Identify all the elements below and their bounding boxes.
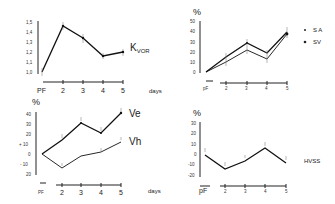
x-tick: 2: [61, 87, 65, 94]
sv-line: [206, 34, 287, 72]
y-tick: 20: [190, 50, 196, 55]
legend-sa-marker: [304, 29, 306, 31]
figure-canvas: 1,5 1,4 1,3 1,2 1,1 1,0 PF 2 3 4 5 days …: [0, 0, 335, 204]
kvor-line: [42, 26, 123, 72]
hvss-label: HVSS: [304, 158, 320, 164]
y-tick: 0: [28, 152, 31, 157]
x-tick: pF: [199, 187, 207, 195]
x-tick: 3: [245, 86, 248, 91]
y-tick: 20: [191, 131, 197, 136]
x-tick: 4: [101, 87, 105, 94]
x-tick: PF: [38, 190, 44, 195]
kvor-label: KVOR: [130, 42, 150, 54]
y-tick: 1,1: [26, 60, 33, 65]
x-tick: 5: [286, 86, 289, 91]
panel-ve-vh: % 40 30 20 + 10 0 - 10 20 PF 2 3 4 5 day…: [19, 97, 161, 196]
x-tick: 3: [244, 189, 247, 194]
y-tick: 20: [26, 172, 32, 177]
x-axis-label: days: [149, 88, 162, 94]
y-tick: 0: [193, 70, 196, 75]
y-tick: + 10: [19, 142, 28, 147]
y-tick: 1,0: [26, 70, 33, 75]
y-tick: - 10: [20, 162, 28, 167]
y-unit: %: [193, 108, 201, 118]
y-tick: 10: [191, 142, 197, 147]
y-tick: -20: [188, 173, 195, 178]
x-axis-label: days: [148, 188, 161, 194]
ve-label: Ve: [129, 108, 141, 119]
y-tick: 1,3: [26, 40, 33, 45]
y-tick: 30: [26, 122, 32, 127]
x-tick: 4: [265, 86, 268, 91]
y-tick: 40: [190, 29, 196, 34]
x-tick: 3: [79, 189, 83, 196]
x-tick: 3: [81, 87, 85, 94]
y-tick: 30: [191, 121, 197, 126]
y-tick: 50: [190, 19, 196, 24]
y-unit: %: [193, 7, 201, 17]
x-tick: 2: [225, 86, 228, 91]
y-tick: 0: [194, 152, 197, 157]
x-tick: 2: [60, 189, 64, 196]
panel-kvor: 1,5 1,4 1,3 1,2 1,1 1,0 PF 2 3 4 5 days …: [26, 20, 162, 94]
y-tick: -10: [188, 162, 195, 167]
y-unit: %: [32, 97, 40, 107]
y-tick: 1,4: [26, 30, 33, 35]
x-tick: 5: [121, 87, 125, 94]
x-tick: PF: [37, 87, 46, 94]
y-tick: 30: [190, 40, 196, 45]
hvss-line: [205, 148, 286, 169]
x-tick: 5: [285, 189, 288, 194]
legend-sv-marker: [304, 41, 307, 44]
y-tick: 1,2: [26, 50, 33, 55]
legend-sa: S A: [313, 27, 322, 33]
y-tick: 20: [26, 132, 32, 137]
panel-sa-sv: % 50 40 30 20 10 0 pF 2 3 4 5 S A SV: [190, 7, 322, 91]
y-tick: 10: [190, 60, 196, 65]
x-tick: 2: [224, 189, 227, 194]
x-tick: 4: [264, 189, 267, 194]
y-tick: 40: [26, 112, 32, 117]
x-tick: pF: [203, 86, 209, 91]
y-tick: 1,5: [26, 20, 33, 25]
legend-sv: SV: [313, 39, 321, 45]
panel-hvss: % 30 20 10 0 -10 -20 pF 2 3 4 5 HVSS: [188, 108, 320, 195]
x-tick: 5: [119, 189, 123, 196]
vh-label: Vh: [129, 136, 141, 147]
x-tick: 4: [99, 189, 103, 196]
